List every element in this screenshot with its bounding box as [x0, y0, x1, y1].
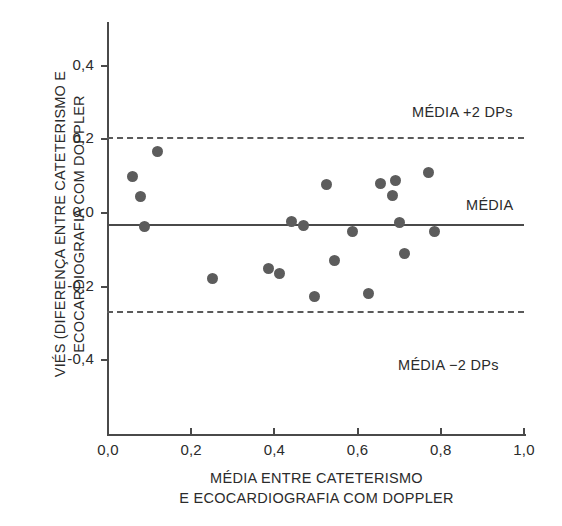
y-tick	[101, 138, 108, 140]
y-tick	[101, 65, 108, 67]
data-point	[423, 167, 434, 178]
x-tick	[107, 428, 109, 435]
reference-line-mean	[107, 224, 524, 226]
data-point	[274, 268, 285, 279]
data-point	[139, 221, 150, 232]
x-tick	[440, 428, 442, 435]
data-point	[375, 178, 386, 189]
data-point	[127, 171, 138, 182]
data-point	[309, 291, 320, 302]
x-tick-label: 0,0	[78, 441, 138, 458]
data-point	[207, 273, 218, 284]
data-point	[399, 248, 410, 259]
x-axis-title: MÉDIA ENTRE CATETERISMO E ECOCARDIOGRAFI…	[107, 468, 526, 508]
data-point	[286, 216, 297, 227]
bland-altman-chart: 0,40,20,0-0,2-0,40,00,20,40,60,81,0 MÉDI…	[0, 0, 562, 526]
data-point	[152, 146, 163, 157]
y-tick	[101, 212, 108, 214]
reference-line-upper-limit	[107, 137, 524, 139]
data-point	[394, 217, 405, 228]
data-point	[329, 255, 340, 266]
x-tick-label: 1,0	[494, 441, 554, 458]
annotation-lower-limit: MÉDIA −2 DPs	[398, 357, 499, 373]
data-point	[347, 226, 358, 237]
data-point	[363, 288, 374, 299]
data-point	[263, 263, 274, 274]
y-tick	[101, 359, 108, 361]
y-axis-line	[107, 22, 109, 436]
data-point	[321, 179, 332, 190]
x-axis-title-line-2: E ECOCARDIOGRAFIA COM DOPPLER	[107, 488, 526, 508]
x-tick	[273, 428, 275, 435]
data-point	[390, 175, 401, 186]
x-axis-line	[107, 434, 526, 436]
y-axis-title-line-2: ECOCARDIOGRAFIA COM DOPPLER	[70, 14, 89, 434]
y-tick	[101, 286, 108, 288]
x-tick	[190, 428, 192, 435]
annotation-upper-limit: MÉDIA +2 DPs	[412, 104, 513, 120]
x-axis-title-line-1: MÉDIA ENTRE CATETERISMO	[107, 468, 526, 488]
x-tick	[357, 428, 359, 435]
x-tick	[523, 428, 525, 435]
x-tick-label: 0,4	[244, 441, 304, 458]
data-point	[429, 226, 440, 237]
data-point	[135, 191, 146, 202]
reference-line-lower-limit	[107, 311, 524, 313]
x-tick-label: 0,6	[328, 441, 388, 458]
annotation-mean: MÉDIA	[466, 197, 513, 213]
y-axis-title-line-1: VIÉS (DIFERENÇA ENTRE CATETERISMO E	[51, 14, 70, 434]
x-tick-label: 0,2	[161, 441, 221, 458]
data-point	[298, 220, 309, 231]
y-axis-title: VIÉS (DIFERENÇA ENTRE CATETERISMO E ECOC…	[51, 14, 89, 434]
data-point	[387, 190, 398, 201]
x-tick-label: 0,8	[411, 441, 471, 458]
